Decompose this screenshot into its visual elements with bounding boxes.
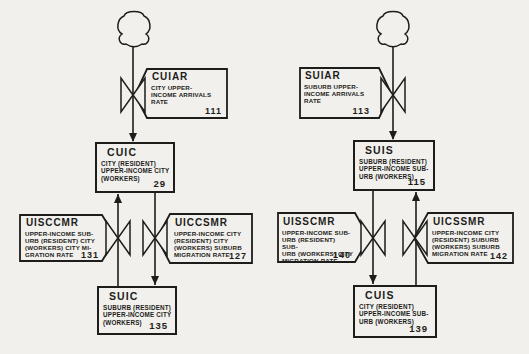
rate-tag-cuiar-text: CUIAR CITY UPPER- INCOME ARRIVALS RATE 1… xyxy=(150,71,224,116)
arrowhead-into-cuic-bottom xyxy=(114,194,122,203)
level-box-cuis: CUIS CITY (RESIDENT) UPPER-INCOME SUB- U… xyxy=(353,285,437,338)
rate-acronym: UICCSMR xyxy=(175,217,249,228)
rate-description: SUBURB UPPER- INCOME ARRIVALS RATE xyxy=(304,83,375,104)
level-acronym: CUIC xyxy=(107,146,173,158)
diagram-canvas xyxy=(0,0,529,354)
arrowhead-into-suis-bottom xyxy=(412,192,420,201)
equation-number: 139 xyxy=(409,323,428,334)
level-acronym: SUIS xyxy=(365,144,433,156)
arrowhead-into-suis-top xyxy=(389,131,397,140)
equation-number: 135 xyxy=(149,320,168,331)
equation-number: 131 xyxy=(81,250,99,260)
cloud-source-icon xyxy=(377,12,409,47)
level-acronym: SUIC xyxy=(109,290,175,302)
equation-number: 140 xyxy=(333,250,351,260)
rate-description: CITY UPPER- INCOME ARRIVALS RATE xyxy=(151,84,224,105)
equation-number: 115 xyxy=(408,176,426,187)
rate-tag-uisscmr-text: UISSCMR UPPER-INCOME SUB- URB (RESIDENT)… xyxy=(281,216,353,260)
valve-icon-uicssmr xyxy=(403,221,427,255)
rate-tag-uisccmr-text: UISCCMR UPPER-INCOME SUB- URB (RESIDENT)… xyxy=(24,217,101,260)
level-acronym: CUIS xyxy=(365,289,435,301)
level-box-suic: SUIC SUBURB (RESIDENT) UPPER-INCOME CITY… xyxy=(97,286,177,335)
arrowhead-into-suic-top xyxy=(151,276,159,285)
equation-number: 113 xyxy=(352,106,370,116)
equation-number: 127 xyxy=(229,251,247,261)
rate-acronym: UICSSMR xyxy=(433,216,510,227)
rate-acronym: UISSCMR xyxy=(283,216,353,227)
rate-tag-suiar-text: SUIAR SUBURB UPPER- INCOME ARRIVALS RATE… xyxy=(303,70,375,116)
rate-tag-uiccsmr-text: UICCSMR UPPER-INCOME CITY (RESIDENT) CIT… xyxy=(173,217,249,261)
rate-acronym: CUIAR xyxy=(152,71,224,82)
rate-acronym: UISCCMR xyxy=(26,217,101,228)
level-box-suis: SUIS SUBURB (RESIDENT) UPPER-INCOME SUB-… xyxy=(353,140,435,191)
equation-number: 111 xyxy=(205,106,222,116)
rate-tag-uicssmr-text: UICSSMR UPPER-INCOME CITY (RESIDENT) SUB… xyxy=(431,216,510,261)
level-box-cuic: CUIC CITY (RESIDENT) UPPER-INCOME CITY (… xyxy=(95,142,175,193)
rate-acronym: SUIAR xyxy=(305,70,375,81)
cloud-source-icon xyxy=(118,12,150,47)
flow-diagram: CUIAR CITY UPPER- INCOME ARRIVALS RATE 1… xyxy=(0,0,529,354)
level-description: CITY (RESIDENT) UPPER-INCOME SUB- URB (W… xyxy=(359,303,435,325)
arrowhead-into-cuis-top xyxy=(369,275,377,284)
arrowhead-into-cuic-top xyxy=(129,133,137,142)
equation-number: 142 xyxy=(490,251,508,261)
equation-number: 29 xyxy=(153,178,166,189)
